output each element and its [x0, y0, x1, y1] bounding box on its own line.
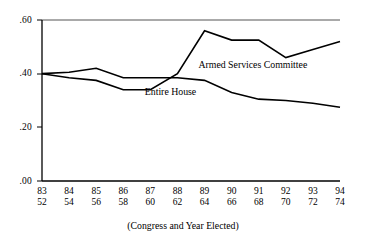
x-tick-year: 72	[300, 197, 326, 208]
x-tick-label: 9168	[246, 186, 272, 208]
x-tick-congress: 92	[273, 186, 299, 197]
x-tick-congress: 91	[246, 186, 272, 197]
x-tick-label: 8658	[110, 186, 136, 208]
x-tick-label: 9474	[327, 186, 353, 208]
x-tick-congress: 84	[56, 186, 82, 197]
x-tick-congress: 90	[219, 186, 245, 197]
chart-figure: .00.20.40.60 835284548556865887608862896…	[0, 0, 366, 243]
y-tick-label: .20	[6, 122, 32, 132]
series-label-entire-house: Entire House	[145, 86, 196, 97]
x-tick-label: 9372	[300, 186, 326, 208]
x-tick-congress: 89	[192, 186, 218, 197]
x-tick-year: 66	[219, 197, 245, 208]
x-tick-congress: 87	[137, 186, 163, 197]
x-tick-label: 8556	[83, 186, 109, 208]
x-tick-label: 8964	[192, 186, 218, 208]
x-tick-label: 8760	[137, 186, 163, 208]
x-tick-congress: 94	[327, 186, 353, 197]
x-tick-congress: 86	[110, 186, 136, 197]
x-tick-label: 8352	[29, 186, 55, 208]
x-tick-year: 62	[164, 197, 190, 208]
y-tick-label: .00	[6, 176, 32, 186]
x-tick-year: 56	[83, 197, 109, 208]
x-tick-year: 68	[246, 197, 272, 208]
x-axis-caption: (Congress and Year Elected)	[0, 220, 366, 231]
x-tick-congress: 83	[29, 186, 55, 197]
x-tick-label: 9270	[273, 186, 299, 208]
x-tick-year: 54	[56, 197, 82, 208]
x-tick-year: 52	[29, 197, 55, 208]
x-tick-label: 8454	[56, 186, 82, 208]
chart-axes	[37, 20, 340, 181]
x-tick-year: 74	[327, 197, 353, 208]
x-tick-year: 60	[137, 197, 163, 208]
x-tick-label: 9066	[219, 186, 245, 208]
x-tick-year: 70	[273, 197, 299, 208]
y-tick-label: .60	[6, 15, 32, 25]
x-tick-year: 64	[192, 197, 218, 208]
x-tick-congress: 93	[300, 186, 326, 197]
series-label-armed-services-committee: Armed Services Committee	[198, 59, 307, 70]
x-tick-congress: 88	[164, 186, 190, 197]
y-tick-label: .40	[6, 68, 32, 78]
x-tick-congress: 85	[83, 186, 109, 197]
x-tick-label: 8862	[164, 186, 190, 208]
x-tick-year: 58	[110, 197, 136, 208]
